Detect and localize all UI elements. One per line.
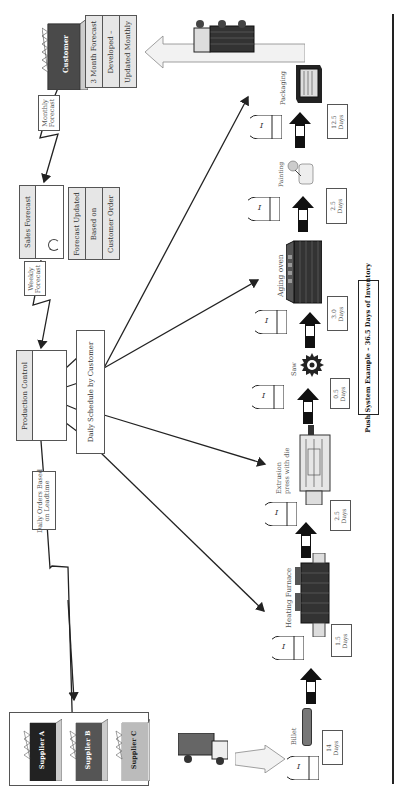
customer-info-line-3: Updated Monthly xyxy=(124,20,132,82)
production-control-label: Production Control xyxy=(20,362,28,430)
sales-forecast-box: Sales Forecast xyxy=(19,185,64,259)
monthly-forecast-label: MonthlyForecast xyxy=(38,95,60,131)
heating-furnace-icon xyxy=(295,553,331,637)
inventory-triangle-2: I xyxy=(265,502,297,526)
inventory-triangle-1: I xyxy=(272,636,304,660)
sales-info-line-3: Customer Order xyxy=(107,195,115,253)
raw-inventory-days: 14Days xyxy=(322,730,343,765)
supplier-a-icon: Supplier A xyxy=(22,719,62,781)
inventory-triangle-5: I xyxy=(248,197,280,221)
billet-icon xyxy=(302,708,312,746)
customer-truck-icon xyxy=(192,20,256,60)
daily-schedule-box: Daily Schedule by Customer xyxy=(76,330,105,454)
supplier-b-label: Supplier B xyxy=(85,731,92,770)
sales-info-line-2: Based on xyxy=(90,207,98,239)
inventory-triangle-3: I xyxy=(252,385,284,409)
saw-blade-icon xyxy=(300,353,324,377)
painting-days: 2.5Days xyxy=(326,188,347,224)
push-arrow-2 xyxy=(295,522,317,558)
aging-oven-icon xyxy=(286,237,322,307)
packaging-icon xyxy=(292,65,322,103)
supplier-c-icon: Supplier C xyxy=(114,719,150,781)
painting-label: Painting xyxy=(277,162,284,187)
saw-days: 0.5Days xyxy=(330,378,350,409)
daily-orders-label: Daily Orders Basedon Leadtime xyxy=(32,471,56,530)
customer-info-line-1: 3 Month Forecast xyxy=(90,20,98,83)
extrusion-press-icon xyxy=(296,425,332,505)
weekly-forecast-label: WeeklyForecast xyxy=(24,261,46,296)
inbound-shipment-arrow xyxy=(235,745,285,773)
push-arrow-1 xyxy=(300,668,322,704)
push-arrow-6 xyxy=(289,112,311,148)
heating-furnace-days: 1.5Days xyxy=(331,624,352,657)
extrusion-days: 2.5Days xyxy=(330,500,351,531)
billet-label: Billet xyxy=(290,728,298,745)
push-arrow-5 xyxy=(292,196,314,232)
customer-info-box: 3 Month Forecast Developed – Updated Mon… xyxy=(85,15,137,88)
painting-icon xyxy=(287,158,315,188)
sales-forecast-label: Sales Forecast xyxy=(23,196,31,248)
kaizen-cycle-icon xyxy=(48,239,60,251)
saw-label: Saw xyxy=(290,362,298,376)
packaging-label: Packaging xyxy=(279,71,287,105)
push-arrow-3 xyxy=(297,388,319,424)
diagram-title: Push System Example – 36.5 Days of Inven… xyxy=(365,263,372,433)
supplier-c-label: Supplier C xyxy=(131,731,138,769)
production-control-box: Production Control xyxy=(16,350,67,441)
supplier-b-icon: Supplier B xyxy=(68,719,108,781)
customer-factory-icon: Customer xyxy=(42,18,88,90)
sales-info-line-1: Forecast Updated xyxy=(73,192,81,255)
inventory-triangle-4: I xyxy=(255,310,287,334)
daily-schedule-label: Daily Schedule by Customer xyxy=(86,342,94,443)
customer-info-line-2: Developed – xyxy=(107,30,115,73)
inventory-triangle-raw: I xyxy=(287,756,319,780)
diagram-title-box: Push System Example – 36.5 Days of Inven… xyxy=(358,280,379,415)
aging-oven-days: 3.0Days xyxy=(327,296,348,331)
customer-label: Customer xyxy=(62,35,70,73)
supplier-truck-icon xyxy=(178,733,228,767)
push-arrow-4 xyxy=(299,312,321,348)
suppliers-group: Supplier A Supplier B Supplier C xyxy=(9,712,149,786)
supplier-a-label: Supplier A xyxy=(39,731,46,769)
extrusion-label: Extrusionpress with die xyxy=(276,448,292,494)
sales-forecast-info-box: Forecast Updated Based on Customer Order xyxy=(68,187,120,260)
aging-oven-label: Aging oven xyxy=(276,254,285,297)
inventory-triangle-6: I xyxy=(250,115,282,139)
heating-furnace-label: Heating Furnace xyxy=(285,568,293,628)
packaging-days: 12.5Days xyxy=(327,104,348,139)
